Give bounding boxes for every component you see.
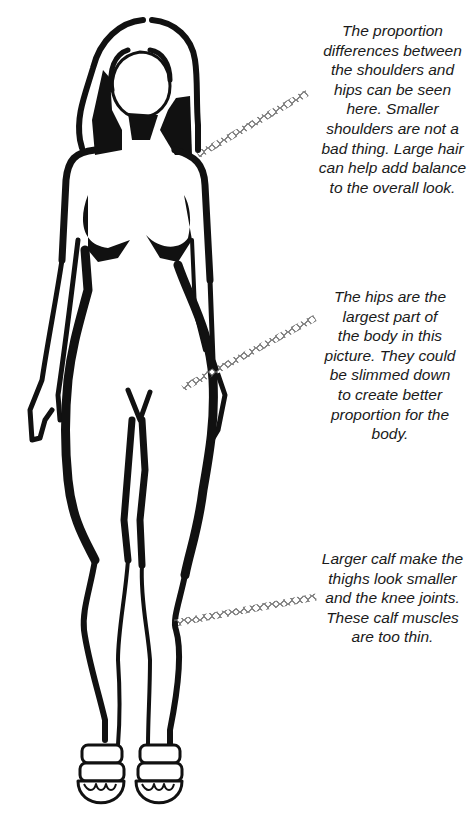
annotation-line: to the overall look. bbox=[310, 178, 475, 198]
annotation-line: largest part of bbox=[315, 307, 465, 327]
annotation-line: thighs look smaller bbox=[310, 569, 475, 589]
annotation-line: hips can be seen bbox=[310, 80, 475, 100]
annotation-line: shoulders are not a bbox=[310, 119, 475, 139]
annotation-line: and the knee joints. bbox=[310, 588, 475, 608]
annotation-line: The hips are the bbox=[315, 287, 465, 307]
annotation-line: the body in this bbox=[315, 326, 465, 346]
sandals bbox=[78, 745, 182, 803]
annotation-line: Larger calf make the bbox=[310, 549, 475, 569]
annotation-line: The proportion bbox=[310, 21, 475, 41]
annotation-line: be slimmed down bbox=[315, 365, 465, 385]
annotation-calves: Larger calf make the thighs look smaller… bbox=[310, 549, 475, 647]
annotation-line: body. bbox=[315, 424, 465, 444]
annotation-hips: The hips are the largest part of the bod… bbox=[315, 287, 465, 444]
annotation-line: are too thin. bbox=[310, 627, 475, 647]
annotation-shoulders: The proportion differences between the s… bbox=[310, 21, 475, 197]
annotation-line: can help add balance bbox=[310, 158, 475, 178]
leader-calves bbox=[175, 597, 316, 623]
annotation-line: the shoulders and bbox=[310, 60, 475, 80]
annotation-line: differences between bbox=[310, 41, 475, 61]
annotation-line: proportion for the bbox=[315, 405, 465, 425]
annotation-line: bad thing. Large hair bbox=[310, 139, 475, 159]
chest-shapes bbox=[83, 195, 192, 262]
annotation-line: picture. They could bbox=[315, 346, 465, 366]
hair-shadow bbox=[92, 70, 192, 155]
annotation-line: to create better bbox=[315, 385, 465, 405]
leader-shoulders bbox=[198, 93, 307, 155]
annotation-line: These calf muscles bbox=[310, 608, 475, 628]
body-outline bbox=[30, 52, 225, 745]
annotation-line: here. Smaller bbox=[310, 99, 475, 119]
